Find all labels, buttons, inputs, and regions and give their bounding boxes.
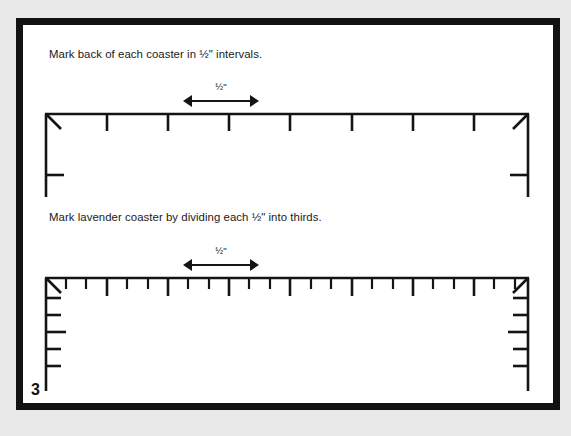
right-edge-tick-group [508, 298, 528, 366]
top-edge-tick-group [107, 114, 474, 131]
top-edge-major-tick-group [107, 278, 474, 296]
coaster-bottom-svg [39, 257, 539, 397]
corner-miter-left [47, 115, 61, 129]
coaster-diagram-bottom [39, 257, 539, 397]
corner-miter-right [513, 115, 527, 129]
corner-miter-left [47, 279, 61, 293]
instruction-text-2: Mark lavender coaster by dividing each ½… [49, 211, 322, 223]
left-edge-tick-group [46, 298, 66, 366]
coaster-diagram-top [39, 93, 539, 203]
dimension-label-2: ½" [183, 245, 259, 256]
worksheet-page: Mark back of each coaster in ½" interval… [23, 25, 553, 403]
worksheet-page-frame: Mark back of each coaster in ½" interval… [16, 18, 560, 410]
page-number: 3 [31, 381, 40, 399]
instruction-text-1: Mark back of each coaster in ½" interval… [49, 48, 262, 60]
coaster-top-svg [39, 93, 539, 203]
dimension-label-1: ½" [183, 81, 259, 92]
